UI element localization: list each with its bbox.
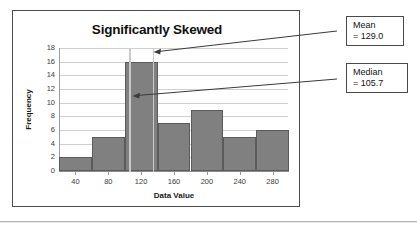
- chart-container: Significantly Skewed 18 16 14 12 10 8: [12, 10, 300, 207]
- median-callout-line1: Median: [353, 67, 402, 78]
- x-tick-label-280: 280: [260, 178, 286, 186]
- mean-callout: Mean = 129.0: [346, 16, 404, 46]
- gridline-18: [59, 48, 288, 49]
- chart-title: Significantly Skewed: [13, 22, 301, 37]
- y-tick-label-6: 6: [33, 126, 55, 134]
- y-tick-label-4: 4: [33, 140, 55, 148]
- median-reference-line: [129, 48, 131, 172]
- x-tick-mark-160: [174, 172, 175, 175]
- mean-callout-line1: Mean: [353, 20, 398, 31]
- bar-140-180: [158, 123, 191, 171]
- bar-220-260: [223, 137, 256, 171]
- x-tick-label-240: 240: [227, 178, 253, 186]
- y-tick-label-2: 2: [33, 153, 55, 161]
- y-axis-line: [59, 48, 60, 172]
- x-tick-mark-40: [75, 172, 76, 175]
- median-callout-line2: = 105.7: [353, 78, 402, 89]
- y-tick-label-12: 12: [33, 85, 55, 93]
- mean-reference-line: [153, 48, 155, 172]
- y-axis-title: Frequency: [24, 70, 33, 150]
- x-tick-label-80: 80: [95, 178, 121, 186]
- median-callout: Median = 105.7: [346, 63, 408, 93]
- x-tick-label-160: 160: [161, 178, 187, 186]
- y-tick-label-10: 10: [33, 99, 55, 107]
- gridline-14: [59, 75, 288, 76]
- x-tick-label-200: 200: [194, 178, 220, 186]
- y-tick-label-0: 0: [33, 167, 55, 175]
- page-separator-rule: [0, 221, 417, 223]
- bar-20-60: [59, 157, 92, 171]
- gridline-12: [59, 89, 288, 90]
- y-tick-label-8: 8: [33, 112, 55, 120]
- gridline-8: [59, 116, 288, 117]
- x-tick-label-40: 40: [62, 178, 88, 186]
- y-tick-label-14: 14: [33, 71, 55, 79]
- gridline-16: [59, 62, 288, 63]
- gridline-10: [59, 103, 288, 104]
- x-tick-mark-200: [207, 172, 208, 175]
- y-tick-label-18: 18: [33, 44, 55, 52]
- x-tick-label-120: 120: [128, 178, 154, 186]
- y-tick-label-16: 16: [33, 58, 55, 66]
- bar-260-300: [256, 130, 289, 171]
- mean-callout-line2: = 129.0: [353, 31, 398, 42]
- x-tick-mark-120: [141, 172, 142, 175]
- bar-180-220: [191, 110, 224, 172]
- x-tick-mark-280: [273, 172, 274, 175]
- x-axis-title: Data Value: [59, 191, 289, 200]
- screenshot-root: Significantly Skewed 18 16 14 12 10 8: [0, 0, 417, 233]
- bar-60-100: [92, 137, 125, 171]
- x-tick-mark-80: [108, 172, 109, 175]
- x-tick-mark-240: [240, 172, 241, 175]
